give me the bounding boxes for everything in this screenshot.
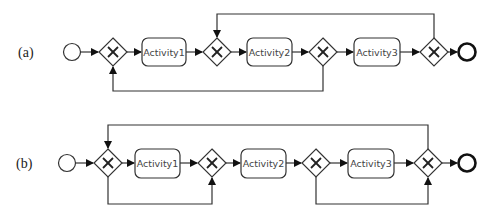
activity-task[interactable]: Activity1 [135,149,180,178]
activity-label: Activity1 [143,47,185,58]
start-event-icon [64,44,81,61]
exclusive-gateway-icon [94,149,122,177]
loop-flow-bottom [316,177,428,204]
exclusive-gateway-icon [99,38,127,66]
activity-label: Activity3 [350,158,392,169]
loop-flow-bottom [108,177,212,204]
exclusive-gateway-icon [198,149,226,177]
start-event-icon [59,155,76,172]
loop-flow-bottom [113,66,323,91]
activity-task[interactable]: Activity2 [247,38,292,66]
loop-flow-top [217,14,434,38]
activity-task[interactable]: Activity3 [354,38,400,66]
diagram-label-a: (a) [18,45,34,61]
diagram-a: (a) Activity1 Activity2 [18,14,476,91]
bpmn-diagram-canvas: (a) Activity1 Activity2 [0,0,498,217]
exclusive-gateway-icon [309,38,337,66]
activity-task[interactable]: Activity1 [142,38,186,66]
activity-label: Activity3 [356,47,398,58]
activity-label: Activity1 [137,158,179,169]
activity-task[interactable]: Activity3 [348,149,394,178]
diagram-b: (b) Activity1 Activity2 [16,125,476,204]
end-event-icon [459,44,476,61]
activity-label: Activity2 [243,158,285,169]
activity-task[interactable]: Activity2 [241,149,286,178]
diagram-label-b: (b) [16,156,33,172]
activity-label: Activity2 [249,47,291,58]
end-event-icon [459,155,476,172]
exclusive-gateway-icon [414,149,442,177]
exclusive-gateway-icon [203,38,231,66]
loop-flow-top [108,125,428,149]
exclusive-gateway-icon [420,38,448,66]
exclusive-gateway-icon [302,149,330,177]
